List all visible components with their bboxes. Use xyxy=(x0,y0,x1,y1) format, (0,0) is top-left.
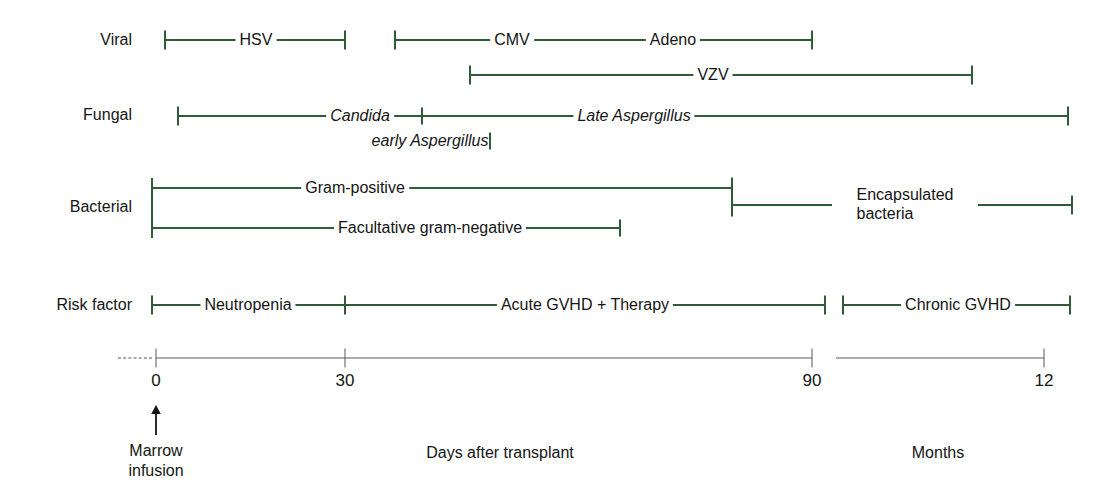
axis-tick-label-12: 12 xyxy=(1035,371,1054,391)
row-label-viral: Viral xyxy=(0,31,132,49)
tick-encapsulated-end xyxy=(1071,196,1073,215)
axis-caption-days: Days after transplant xyxy=(426,443,574,463)
band-line-encapsulated-left xyxy=(732,204,832,206)
row-label-risk_factor: Risk factor xyxy=(0,296,132,314)
axis-tick-12 xyxy=(1044,349,1045,368)
tick-facultative-gram-negative-end xyxy=(619,220,621,237)
tick-cmv-start xyxy=(394,31,396,50)
axis-caption-months: Months xyxy=(912,443,964,463)
band-label-gram-positive: Gram-positive xyxy=(301,180,409,197)
tick-hsv-start xyxy=(164,31,166,50)
tick-early-aspergillus-end xyxy=(489,133,491,150)
band-label-facultative-gram-negative: Facultative gram-negative xyxy=(334,220,526,237)
tick-hsv-end xyxy=(344,31,346,50)
axis-tick-label-90: 90 xyxy=(803,371,822,391)
axis-line-months xyxy=(836,358,1044,359)
band-label-early-aspergillus: early Aspergillus xyxy=(368,133,493,150)
axis-tick-0 xyxy=(156,349,157,368)
band-line-cmv-adeno xyxy=(395,39,812,41)
band-label-hsv: HSV xyxy=(236,32,277,49)
tick-adeno-end xyxy=(811,31,813,50)
band-line-encapsulated-right xyxy=(978,204,1072,206)
tick-neutropenia-start xyxy=(151,296,153,315)
axis-leading-dash xyxy=(118,358,152,359)
band-label-encapsulated-bacteria: Encapsulatedbacteria xyxy=(853,186,958,224)
band-label-neutropenia: Neutropenia xyxy=(200,297,295,314)
band-line-gram-positive xyxy=(152,187,732,189)
tick-vzv-start xyxy=(469,66,471,85)
tick-chronic-gvhd-end xyxy=(1069,296,1071,315)
band-label-adeno: Adeno xyxy=(646,32,700,49)
tick-late-aspergillus-start xyxy=(421,108,423,125)
axis-tick-90 xyxy=(812,349,813,368)
axis-tick-30 xyxy=(345,349,346,368)
axis-line-days xyxy=(156,358,812,359)
tick-bacterial-start xyxy=(151,178,153,238)
axis-tick-label-0: 0 xyxy=(151,371,160,391)
row-label-fungal: Fungal xyxy=(0,106,132,124)
band-label-vzv: VZV xyxy=(693,67,732,84)
tick-late-aspergillus-end xyxy=(1067,107,1069,126)
tick-gram-positive-end xyxy=(731,177,733,216)
tick-chronic-gvhd-start xyxy=(842,296,844,315)
band-line-late-aspergillus xyxy=(422,115,1068,117)
infection-timeline-figure: ViralFungalBacterialRisk factorHSVCMVAde… xyxy=(0,0,1100,502)
row-label-bacterial: Bacterial xyxy=(0,198,132,216)
marrow-infusion-arrow-icon xyxy=(149,405,163,439)
band-label-candida: Candida xyxy=(326,108,394,125)
axis-tick-label-30: 30 xyxy=(336,371,355,391)
tick-neutropenia-end xyxy=(344,296,346,315)
band-label-late-aspergillus: Late Aspergillus xyxy=(573,108,694,125)
band-label-chronic-gvhd: Chronic GVHD xyxy=(901,297,1015,314)
tick-vzv-end xyxy=(971,66,973,85)
marrow-infusion-label: Marrowinfusion xyxy=(128,441,183,481)
tick-candida-start xyxy=(177,107,179,126)
band-label-acute-gvhd-therapy: Acute GVHD + Therapy xyxy=(497,297,673,314)
band-label-cmv: CMV xyxy=(490,32,534,49)
tick-acute-gvhd-end xyxy=(824,296,826,315)
